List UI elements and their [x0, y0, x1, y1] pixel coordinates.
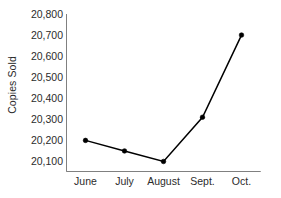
y-axis-title-label: Copies Sold [6, 56, 18, 114]
x-axis-tick-label: Sept. [190, 175, 215, 187]
y-axis-tick-label: 20,800 [31, 8, 63, 20]
y-axis-tick-label: 20,700 [31, 29, 63, 41]
y-axis-tick-label: 20,200 [31, 134, 63, 146]
y-axis-tick-label: 20,600 [31, 50, 63, 62]
x-axis-tick-label: August [147, 175, 180, 187]
plot-svg [66, 14, 261, 172]
x-axis-tick-label: July [115, 175, 134, 187]
y-axis-tick-label: 20,500 [31, 71, 63, 83]
y-axis-tick-labels: 20,10020,20020,30020,40020,50020,60020,7… [22, 0, 66, 198]
x-axis-tick-label: June [74, 175, 97, 187]
axis-lines [67, 14, 261, 172]
x-axis-tick-labels: JuneJulyAugustSept.Oct. [66, 175, 261, 195]
data-markers [83, 33, 244, 164]
y-axis-tick-label: 20,100 [31, 155, 63, 167]
y-axis-tick-label: 20,300 [31, 113, 63, 125]
y-axis-tick-label: 20,400 [31, 92, 63, 104]
line-chart: Copies Sold 20,10020,20020,30020,40020,5… [0, 0, 281, 198]
plot-area [66, 14, 261, 172]
x-axis-tick-label: Oct. [232, 175, 251, 187]
data-line [86, 35, 242, 161]
y-axis-title: Copies Sold [0, 0, 24, 170]
